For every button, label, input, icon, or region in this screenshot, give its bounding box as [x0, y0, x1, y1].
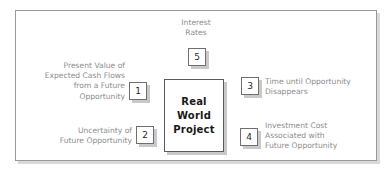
label-2-line-1: Uncertainty of	[0, 126, 132, 136]
label-1-line-3: from a Future	[0, 81, 125, 91]
real-world-project-box[interactable]: Real World Project	[164, 79, 224, 152]
label-time-until-opportunity: Time until Opportunity Disappears	[265, 77, 392, 97]
label-1-line-1: Present Value of	[0, 61, 125, 71]
center-line-2: World	[177, 109, 211, 123]
label-uncertainty: Uncertainty of Future Opportunity	[0, 126, 132, 146]
number-box-5[interactable]: 5	[188, 48, 206, 66]
label-5-line-2: Rates	[155, 28, 237, 38]
label-1-line-4: Opportunity	[0, 92, 125, 102]
center-line-1: Real	[181, 95, 206, 109]
label-5-line-1: Interest	[155, 18, 237, 28]
number-box-3[interactable]: 3	[241, 77, 259, 95]
diagram-canvas: Present Value of Expected Cash Flows fro…	[0, 0, 392, 174]
label-4-line-2: Associated with	[265, 131, 392, 141]
label-4-line-3: Future Opportunity	[265, 141, 392, 151]
number-box-4[interactable]: 4	[240, 128, 258, 146]
label-4-line-1: Investment Cost	[265, 121, 392, 131]
label-1-line-2: Expected Cash Flows	[0, 71, 125, 81]
number-box-2[interactable]: 2	[136, 126, 154, 144]
label-investment-cost: Investment Cost Associated with Future O…	[265, 121, 392, 152]
label-present-value: Present Value of Expected Cash Flows fro…	[0, 61, 125, 102]
label-interest-rates: Interest Rates	[155, 18, 237, 38]
label-2-line-2: Future Opportunity	[0, 136, 132, 146]
label-3-line-2: Disappears	[265, 87, 392, 97]
number-box-1[interactable]: 1	[129, 82, 147, 100]
center-line-3: Project	[173, 123, 214, 137]
label-3-line-1: Time until Opportunity	[265, 77, 392, 87]
